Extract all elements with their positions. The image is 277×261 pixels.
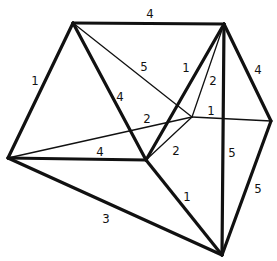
edge-weight-label-D-E: 2 (172, 143, 179, 158)
edge-D-G (146, 160, 222, 255)
edge-B-G (222, 24, 224, 255)
edge-weight-label-B-D: 1 (182, 60, 189, 75)
edge-C-D (8, 158, 146, 160)
edge-weight-label-C-E: 2 (143, 111, 150, 126)
edge-B-F (224, 24, 271, 121)
edge-A-B (73, 23, 224, 24)
edge-weight-label-B-G: 5 (228, 145, 235, 160)
edge-weight-label-A-B: 4 (146, 6, 153, 21)
edge-weight-label-C-D: 4 (96, 144, 103, 159)
edge-weight-label-C-G: 3 (102, 211, 109, 226)
edge-weight-label-A-C: 1 (31, 73, 38, 88)
edge-weight-label-F-G: 5 (254, 181, 261, 196)
edge-D-E (146, 117, 192, 160)
edge-weight-label-A-E: 5 (140, 59, 147, 74)
edge-weight-label-E-F: 1 (207, 103, 214, 118)
edge-weight-label-D-G: 1 (183, 189, 190, 204)
weighted-graph-diagram: 414512452432115 (0, 0, 277, 261)
edge-B-D (146, 24, 224, 160)
edge-weight-label-B-F: 4 (254, 62, 261, 77)
edge-C-G (8, 158, 222, 255)
edges-group (8, 23, 271, 255)
edge-weight-label-B-E: 2 (209, 73, 216, 88)
edge-A-C (8, 23, 73, 158)
edge-A-E (73, 23, 192, 117)
edge-A-D (73, 23, 146, 160)
edge-weight-label-A-D: 4 (116, 89, 123, 104)
edge-F-G (222, 121, 271, 255)
edge-E-F (192, 117, 271, 121)
